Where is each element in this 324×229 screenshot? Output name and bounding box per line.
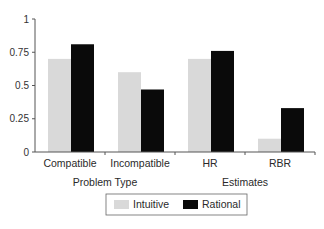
- x-category-label: Compatible: [43, 157, 96, 169]
- legend-label-rational: Rational: [202, 198, 241, 210]
- y-tick-label: 1: [23, 14, 29, 25]
- x-group-label: Estimates: [222, 176, 268, 188]
- bar-chart: 00.250.50.751CompatibleIncompatibleHRRBR…: [0, 0, 324, 229]
- y-tick-label: 0: [23, 147, 29, 158]
- bar-intuitive-rbr: [258, 139, 281, 152]
- bar-intuitive-hr: [188, 59, 211, 152]
- bar-intuitive-incompatible: [118, 72, 141, 152]
- bar-rational-rbr: [281, 108, 304, 152]
- x-category-label: RBR: [269, 157, 292, 169]
- legend-swatch-intuitive: [114, 200, 129, 209]
- legend: IntuitiveRational: [106, 194, 247, 215]
- x-group-label: Problem Type: [73, 176, 138, 188]
- bar-rational-incompatible: [141, 89, 164, 152]
- x-category-label: HR: [202, 157, 218, 169]
- legend-swatch-rational: [183, 200, 198, 209]
- y-tick-label: 0.25: [10, 113, 30, 124]
- bar-rational-compatible: [71, 44, 94, 152]
- bar-intuitive-compatible: [48, 59, 71, 152]
- y-tick-label: 0.75: [10, 47, 30, 58]
- y-tick-label: 0.5: [15, 80, 29, 91]
- bar-rational-hr: [211, 51, 234, 152]
- legend-label-intuitive: Intuitive: [133, 198, 169, 210]
- bars-layer: [48, 44, 304, 152]
- x-category-label: Incompatible: [110, 157, 170, 169]
